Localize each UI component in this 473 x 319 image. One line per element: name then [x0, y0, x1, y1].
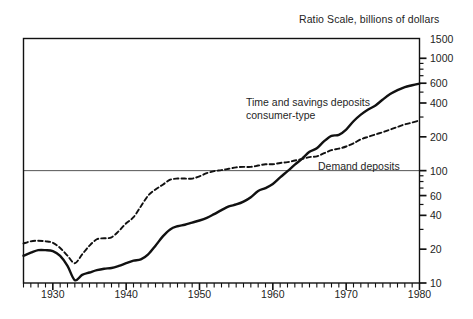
x-axis-tick-label: 1940 — [115, 288, 138, 300]
time-savings-label-line1: Time and savings deposits — [246, 96, 370, 109]
x-axis-tick-label: 1950 — [188, 288, 211, 300]
y-axis-tick-label: 1000 — [430, 52, 453, 64]
x-axis-tick-label: 1980 — [408, 288, 431, 300]
chart-figure: Ratio Scale, billions of dollars 1500100… — [0, 0, 473, 319]
x-axis-ticks — [24, 283, 420, 290]
y-axis-tick-label: 20 — [430, 243, 442, 255]
time-savings-label-line2: consumer-type — [246, 109, 370, 122]
series-line-demand-deposits — [24, 120, 420, 263]
y-axis-tick-label: 10 — [430, 277, 442, 289]
y-axis-tick-label: 60 — [430, 190, 442, 202]
y-axis-tick-label: 100 — [430, 165, 448, 177]
demand-deposits-label: Demand deposits — [318, 160, 400, 173]
y-axis-tick-label: 40 — [430, 209, 442, 221]
chart-plot-area — [0, 0, 473, 319]
y-axis-tick-label: 1500 — [430, 33, 453, 45]
demand-deposits-label-line1: Demand deposits — [318, 160, 400, 173]
y-axis-tick-label: 600 — [430, 77, 448, 89]
y-axis-tick-label: 400 — [430, 97, 448, 109]
time-savings-label: Time and savings deposits consumer-type — [246, 96, 370, 121]
x-axis-tick-label: 1960 — [261, 288, 284, 300]
x-axis-tick-label: 1970 — [335, 288, 358, 300]
y-axis-tick-label: 200 — [430, 131, 448, 143]
y-axis-ticks — [420, 58, 427, 283]
x-axis-tick-label: 1930 — [41, 288, 64, 300]
